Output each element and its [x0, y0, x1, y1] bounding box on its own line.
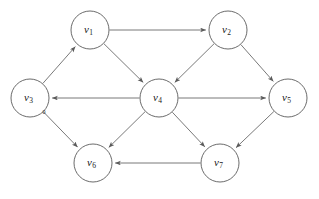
graph-edge-v1-to-v4: [104, 44, 143, 83]
node-subscript-v7: 7: [219, 161, 223, 170]
graph-node-v6[interactable]: v6: [74, 144, 112, 182]
node-subscript-v3: 3: [29, 96, 33, 105]
graph-node-v2[interactable]: v2: [209, 11, 247, 49]
graph-node-v5[interactable]: v5: [269, 79, 307, 117]
node-subscript-v2: 2: [227, 28, 231, 37]
node-subscript-v4: 4: [158, 96, 162, 105]
graph-edge-v4-to-v6: [109, 112, 145, 148]
graph-edge-v3-to-v1: [43, 47, 75, 84]
graph-node-v4[interactable]: v4: [140, 79, 178, 117]
graph-edge-v3-to-v6: [44, 112, 78, 147]
node-subscript-v6: 6: [92, 161, 96, 170]
stray-mark-layer: 0: [43, 109, 46, 115]
mark-v3-zero: 0: [43, 109, 46, 115]
graph-edge-v2-to-v4: [175, 44, 214, 83]
graph-edge-v4-to-v7: [172, 112, 204, 147]
node-subscript-v1: 1: [89, 28, 93, 37]
node-subscript-v5: 5: [287, 96, 291, 105]
graph-node-v7[interactable]: v7: [201, 144, 239, 182]
node-layer: v1v2v3v4v5v6v7: [11, 11, 307, 182]
graph-canvas: v1v2v3v4v5v6v7 0: [0, 0, 319, 199]
graph-edge-v5-to-v7: [236, 111, 274, 147]
directed-graph-figure: v1v2v3v4v5v6v7 0: [0, 0, 319, 199]
graph-node-v1[interactable]: v1: [71, 11, 109, 49]
graph-edge-v2-to-v5: [241, 45, 273, 82]
